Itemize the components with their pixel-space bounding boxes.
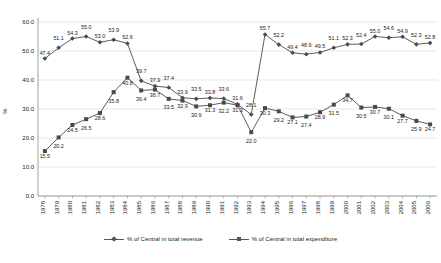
data-point-marker (359, 106, 363, 110)
chart-figure: 0.010.020.030.040.050.060.01978197919801… (0, 0, 441, 263)
x-axis-tick-label: 1988 (177, 200, 183, 214)
data-point-label: 33.8 (205, 89, 216, 95)
data-point-marker (304, 115, 308, 119)
x-axis-tick-label: 1978 (40, 200, 46, 214)
y-axis-tick-label: 40.0 (22, 77, 34, 83)
data-point-marker (84, 117, 88, 121)
y-axis-tick-label: 60.0 (22, 19, 34, 25)
data-point-label: 28.1 (246, 102, 257, 108)
data-point-marker (359, 42, 364, 47)
x-axis-tick-label: 1995 (274, 200, 280, 214)
data-point-label: 26.5 (81, 125, 92, 131)
data-point-label: 49.5 (315, 43, 326, 49)
data-point-label: 40.8 (122, 80, 133, 86)
x-axis-tick-label: 1979 (54, 200, 60, 214)
data-point-marker (387, 107, 391, 111)
x-axis-tick-label: 2003 (384, 200, 390, 214)
data-point-label: 29.2 (274, 117, 285, 123)
data-point-label: 54.3 (67, 30, 78, 36)
data-point-label: 33.6 (218, 86, 229, 92)
data-point-label: 31.3 (205, 107, 216, 113)
data-point-label: 49.4 (287, 44, 298, 50)
data-point-label: 39.7 (136, 68, 147, 74)
data-point-marker (345, 42, 350, 47)
data-point-label: 52.3 (411, 32, 422, 38)
x-axis-tick-label: 1981 (81, 200, 87, 214)
data-point-marker (387, 35, 392, 40)
y-axis-tick-label: 10.0 (22, 164, 34, 170)
data-point-marker (414, 119, 418, 123)
data-point-label: 20.2 (53, 143, 64, 149)
data-point-label: 32.2 (218, 108, 229, 114)
data-point-marker (167, 97, 171, 101)
data-point-label: 28.6 (95, 115, 106, 121)
data-point-label: 30.9 (191, 112, 202, 118)
x-axis-tick-label: 1991 (219, 200, 225, 214)
data-point-label: 36.7 (150, 92, 161, 98)
data-point-label: 53.9 (108, 27, 119, 33)
data-point-marker (139, 79, 144, 84)
chart-legend: % of Central in total revenue % of Centr… (0, 236, 441, 242)
legend-label-expenditure: % of Central in total expenditure (252, 236, 337, 242)
x-axis-tick-label: 1999 (329, 200, 335, 214)
data-point-marker (332, 103, 336, 107)
data-point-label: 30.7 (370, 109, 381, 115)
data-point-marker (139, 88, 143, 92)
x-axis-tick-label: 1994 (260, 200, 266, 214)
data-point-label: 30.1 (384, 114, 395, 120)
x-axis-tick-label: 2001 (356, 200, 362, 214)
y-axis-title: % (2, 108, 8, 113)
data-point-label: 54.9 (397, 28, 408, 34)
y-axis-tick-label: 0.0 (26, 193, 35, 199)
data-point-label: 34.7 (342, 97, 353, 103)
x-axis-tick-label: 1980 (67, 200, 73, 214)
legend-marker-diamond-icon (104, 239, 124, 240)
data-point-label: 37.9 (150, 77, 161, 83)
data-point-label: 52.4 (356, 32, 367, 38)
x-axis-tick-label: 1986 (150, 200, 156, 214)
data-point-label: 30.3 (260, 110, 271, 116)
x-axis-tick-label: 2006 (425, 200, 431, 214)
data-point-label: 55.7 (260, 25, 271, 31)
data-point-label: 15.5 (40, 153, 51, 159)
data-point-label: 48.9 (301, 42, 312, 48)
data-point-label: 47.4 (40, 50, 51, 56)
data-point-marker (304, 52, 309, 57)
x-axis-tick-label: 1983 (109, 200, 115, 214)
x-axis-tick-label: 1984 (122, 200, 128, 214)
data-point-marker (112, 90, 116, 94)
x-axis-tick-label: 1987 (164, 200, 170, 214)
data-point-marker (373, 34, 378, 39)
data-point-label: 31.3 (232, 107, 243, 113)
data-point-label: 55.0 (81, 24, 92, 30)
y-axis-tick-label: 20.0 (22, 135, 34, 141)
data-point-label: 28.9 (315, 114, 326, 120)
data-point-label: 37.4 (163, 75, 174, 81)
x-axis-tick-label: 1989 (191, 200, 197, 214)
x-axis-tick-label: 1992 (233, 200, 239, 214)
chart-canvas: 0.010.020.030.040.050.060.01978197919801… (0, 0, 441, 263)
legend-marker-square-icon (229, 239, 249, 240)
data-point-label: 51.1 (329, 35, 340, 41)
data-point-label: 30.5 (356, 113, 367, 119)
data-point-label: 31.5 (329, 110, 340, 116)
data-point-marker (332, 46, 337, 51)
data-point-label: 22.0 (246, 138, 257, 144)
data-point-label: 52.2 (274, 32, 285, 38)
legend-item-expenditure: % of Central in total expenditure (229, 236, 337, 242)
data-point-marker (111, 37, 116, 42)
chart-plot-area: 0.010.020.030.040.050.060.01978197919801… (0, 0, 441, 263)
x-axis-tick-label: 1982 (95, 200, 101, 214)
data-point-label: 35.8 (108, 98, 119, 104)
data-point-label: 55.0 (370, 28, 381, 34)
data-point-marker (428, 41, 433, 46)
x-axis-tick-label: 1997 (301, 200, 307, 214)
data-point-marker (221, 96, 226, 101)
data-point-marker (222, 101, 226, 105)
x-axis-tick-label: 2000 (343, 200, 349, 214)
data-point-label: 33.5 (163, 104, 174, 110)
legend-label-revenue: % of Central in total revenue (127, 236, 203, 242)
data-point-marker (414, 42, 419, 47)
data-point-label: 33.9 (177, 89, 188, 95)
data-point-marker (249, 130, 253, 134)
